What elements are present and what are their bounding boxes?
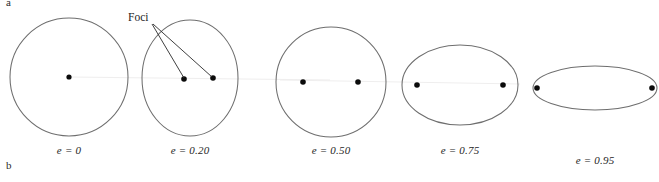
panel-letter-a: a <box>6 0 11 8</box>
panel-letter-b: b <box>6 160 12 171</box>
eccentricity-label-e095: e = 0.95 <box>555 154 635 166</box>
focus-dot <box>66 74 71 79</box>
focus-dot <box>500 82 506 88</box>
focus-dot <box>300 79 306 85</box>
foci-annotation-label: Foci <box>128 11 148 23</box>
orbit-group-e075 <box>402 45 518 125</box>
eccentricity-label-e0: e = 0 <box>29 144 109 156</box>
faint-guide-line <box>70 77 330 80</box>
eccentricity-label-e020: e = 0.20 <box>150 144 230 156</box>
orbit-group-e050 <box>276 27 386 137</box>
orbit-ellipse-e095 <box>533 66 657 110</box>
eccentricity-label-e075: e = 0.75 <box>420 144 500 156</box>
eccentricity-label-e050: e = 0.50 <box>291 144 371 156</box>
orbit-ellipse-e050 <box>276 27 386 137</box>
orbital-eccentricity-figure: a b Foci e = 0 e = 0.20 e = 0.50 e = 0.7… <box>0 0 659 182</box>
focus-dot <box>414 82 420 88</box>
faint-guide-line <box>280 80 520 84</box>
orbit-group-e095 <box>533 66 657 110</box>
focus-dot <box>181 76 187 82</box>
focus-dot <box>649 85 655 91</box>
focus-dot <box>534 85 540 91</box>
foci-leader-line <box>152 24 184 78</box>
focus-dot <box>355 79 361 85</box>
foci-leader-line <box>153 24 212 77</box>
